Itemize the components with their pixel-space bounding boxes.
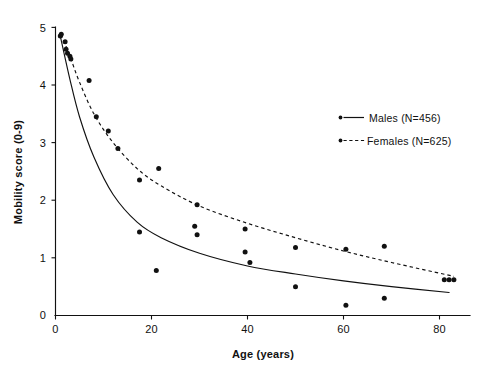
chart-background (0, 0, 493, 375)
data-point-female (137, 178, 142, 183)
y-axis-title: Mobility score (0-9) (12, 120, 24, 224)
data-point-male (382, 296, 387, 301)
y-tick-label-0: 0 (40, 309, 46, 321)
data-point-male (137, 229, 142, 234)
data-point-male (247, 260, 252, 265)
mobility-score-scatter-chart: 5 4 3 2 1 0 0 20 40 60 80 Age (years) Mo… (0, 0, 493, 375)
data-point-male (63, 39, 68, 44)
legend-marker-females (339, 139, 343, 143)
data-point-female (382, 244, 387, 249)
data-point-female (94, 114, 99, 119)
x-tick-label-0: 0 (52, 323, 58, 335)
data-point-male (447, 277, 452, 282)
legend-marker-males (339, 116, 343, 120)
data-point-female (59, 32, 64, 37)
data-point-female (156, 166, 161, 171)
data-point-female (106, 129, 111, 134)
legend-label-females: Females (N=625) (367, 135, 451, 147)
data-point-male (293, 284, 298, 289)
x-axis-title: Age (years) (232, 348, 294, 360)
x-tick-label-40: 40 (241, 323, 254, 335)
data-point-male (243, 250, 248, 255)
data-point-male (192, 224, 197, 229)
data-point-female (343, 247, 348, 252)
y-tick-label-1: 1 (40, 252, 46, 264)
data-point-female (115, 146, 120, 151)
y-tick-label-5: 5 (40, 22, 46, 34)
data-point-female (87, 78, 92, 83)
data-point-female (442, 277, 447, 282)
data-point-female (293, 245, 298, 250)
data-point-male (195, 232, 200, 237)
data-point-female (195, 202, 200, 207)
x-tick-label-80: 80 (433, 323, 446, 335)
data-point-male (343, 303, 348, 308)
x-tick-label-60: 60 (337, 323, 350, 335)
data-point-female (243, 227, 248, 232)
data-point-male (154, 268, 159, 273)
y-tick-label-2: 2 (40, 194, 46, 206)
y-tick-label-4: 4 (40, 79, 46, 91)
x-tick-label-20: 20 (145, 323, 158, 335)
data-point-female (64, 47, 69, 52)
data-point-female (68, 57, 73, 62)
y-tick-label-3: 3 (40, 137, 46, 149)
legend-label-males: Males (N=456) (369, 112, 441, 124)
data-point-female (451, 277, 456, 282)
